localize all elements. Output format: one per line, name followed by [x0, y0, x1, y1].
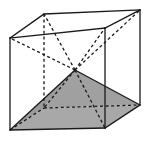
solid-edge-front-top	[10, 28, 105, 38]
pyramid-edge-apex-to-front-top-left	[10, 38, 75, 70]
solid-edge-back-top	[44, 10, 140, 14]
pyramid-edge-apex-to-back-top-left	[44, 14, 75, 70]
pyramid-edge-apex-to-back-top-right	[75, 10, 140, 70]
solid-edge-top-right-receding	[105, 10, 140, 28]
pyramid-edge-apex-to-front-top-right	[75, 28, 105, 70]
cube-diagram-svg	[0, 0, 150, 147]
shaded-faces-group	[10, 70, 140, 130]
cube-pyramid-figure	[0, 0, 150, 147]
